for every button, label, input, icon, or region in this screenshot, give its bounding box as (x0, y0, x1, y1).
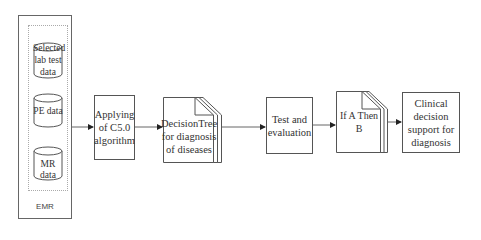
process-label-line4: diagnosis (408, 136, 454, 149)
process-clinical-decision-support: Clinical decision support for diagnosis (402, 92, 460, 153)
process-label-line1: Applying (94, 108, 135, 121)
document-label: If A Then B (336, 109, 382, 135)
process-label-line3: algorithm (94, 134, 135, 147)
process-test-evaluation: Test and evaluation (266, 97, 313, 154)
process-label-line2: decision (408, 110, 454, 123)
document-label-line1: DecisionTree (161, 117, 217, 130)
process-applying-c50: Applying of C5.0 algorithm (94, 95, 135, 160)
process-label-line1: Test and (268, 113, 312, 126)
process-label-line1: Clinical (408, 97, 454, 110)
process-label-line3: support for (408, 123, 454, 136)
process-label-line2: evaluation (268, 126, 312, 139)
document-label-line3: of diseases (161, 143, 217, 156)
process-label-line2: of C5.0 (94, 121, 135, 134)
document-label-line2: for diagnosis (161, 130, 217, 143)
document-if-a-then-b: If A Then B (336, 112, 382, 132)
document-decision-tree: DecisionTree for diagnosis of diseases (163, 112, 215, 160)
